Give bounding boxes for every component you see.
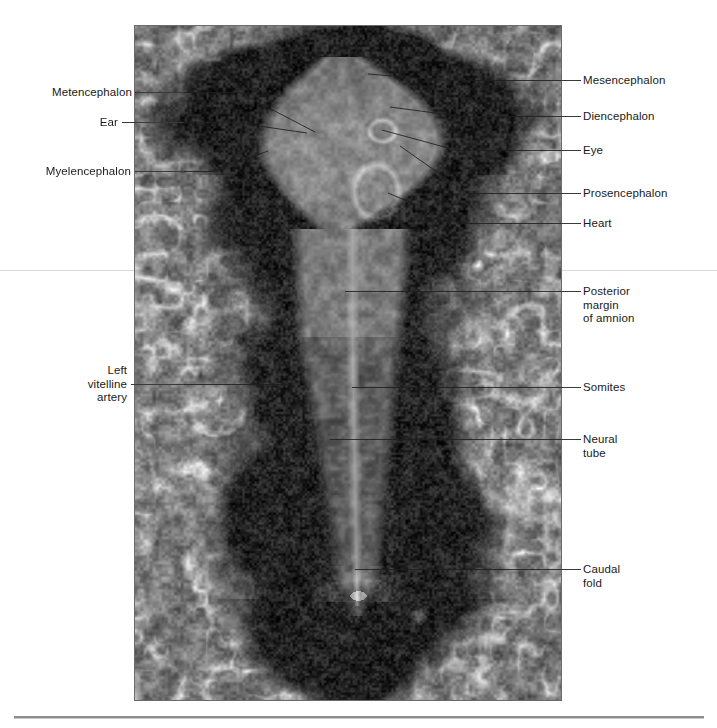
embryo-photograph-canvas: [135, 26, 561, 700]
label-somites: Somites: [583, 381, 625, 395]
label-diencephalon: Diencephalon: [583, 110, 655, 124]
label-prosencephalon: Prosencephalon: [583, 187, 668, 201]
leader-line-heart: [561, 223, 581, 224]
leader-line-metencephalon: [136, 92, 184, 93]
leader-line-ear: [122, 122, 184, 123]
label-mesencephalon: Mesencephalon: [583, 74, 666, 88]
leader-line-somites: [561, 387, 581, 388]
embryo-photograph: [135, 26, 561, 700]
leader-line-mesencephalon: [561, 80, 581, 81]
leader-line-myelencephalon: [135, 171, 184, 172]
leader-line-prosencephalon: [561, 193, 581, 194]
leader-line-eye: [561, 150, 581, 151]
label-metencephalon: Metencephalon: [52, 86, 132, 100]
leader-line-diencephalon: [561, 116, 581, 117]
figure-root: MetencephalonEarMyelencephalonLeft vitel…: [0, 0, 717, 728]
label-ear: Ear: [100, 116, 118, 130]
label-left-vitelline-artery: Left vitelline artery: [88, 364, 127, 405]
leader-line-neural-tube: [561, 439, 581, 440]
label-posterior-margin-of-amnion: Posterior margin of amnion: [583, 285, 634, 326]
label-heart: Heart: [583, 217, 612, 231]
leader-line-caudal-fold: [561, 569, 581, 570]
leader-line-left-vitelline-artery: [131, 384, 184, 385]
lower-page-rule-shadow: [14, 718, 704, 719]
label-eye: Eye: [583, 144, 603, 158]
upper-page-rule-right-segment: [565, 270, 717, 271]
label-myelencephalon: Myelencephalon: [46, 165, 131, 179]
label-neural-tube: Neural tube: [583, 433, 617, 460]
label-caudal-fold: Caudal fold: [583, 563, 620, 590]
leader-line-posterior-margin-of-amnion: [561, 291, 581, 292]
